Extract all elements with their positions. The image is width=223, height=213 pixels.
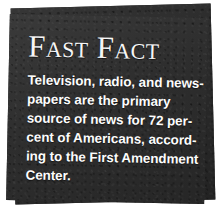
callout-body: Television, radio, and news- papers are … — [25, 70, 203, 188]
fast-fact-callout: Fast Fact Television, radio, and news- p… — [0, 0, 223, 213]
callout-headline: Fast Fact — [28, 30, 160, 64]
body-line: Center. — [25, 165, 201, 188]
callout-content: Fast Fact Television, radio, and news- p… — [6, 14, 208, 204]
